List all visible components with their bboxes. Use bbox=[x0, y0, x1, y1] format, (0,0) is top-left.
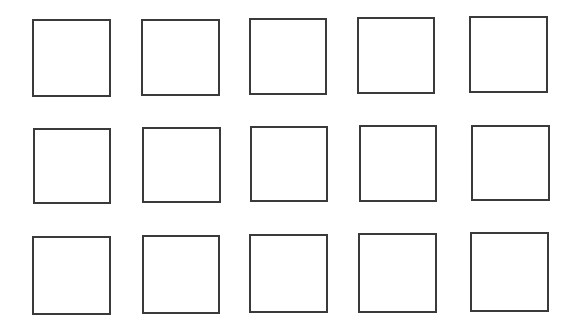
square-r1-c5 bbox=[469, 16, 548, 93]
square-r1-c4 bbox=[357, 17, 435, 94]
square-r3-c3 bbox=[249, 234, 328, 313]
square-r3-c5 bbox=[470, 232, 549, 312]
square-r2-c2 bbox=[142, 127, 221, 203]
square-r2-c1 bbox=[33, 128, 111, 204]
square-r2-c4 bbox=[359, 125, 437, 202]
square-r1-c2 bbox=[141, 19, 220, 96]
square-r3-c4 bbox=[358, 233, 437, 313]
square-r2-c5 bbox=[471, 125, 550, 201]
square-r1-c1 bbox=[32, 19, 111, 97]
square-r3-c2 bbox=[142, 235, 220, 314]
square-r3-c1 bbox=[32, 236, 111, 315]
square-r1-c3 bbox=[249, 18, 327, 95]
square-r2-c3 bbox=[250, 126, 328, 202]
